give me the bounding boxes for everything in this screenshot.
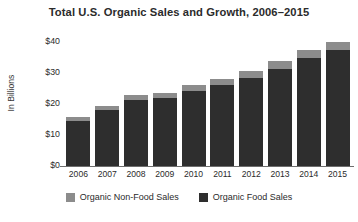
bar-segment-non-food: [297, 50, 321, 58]
bar-2014: [297, 50, 321, 166]
bar-2012: [239, 71, 263, 166]
bar-segment-non-food: [326, 42, 350, 50]
bar-2006: [66, 117, 90, 166]
bar-segment-food: [210, 85, 234, 166]
x-axis-baseline: [60, 166, 354, 167]
bar-segment-food: [239, 78, 263, 166]
bar-2009: [153, 93, 177, 166]
chart-legend: Organic Non-Food SalesOrganic Food Sales: [0, 192, 358, 202]
x-axis-tick-2015: 2015: [321, 169, 355, 179]
bar-segment-food: [182, 91, 206, 166]
bar-segment-food: [268, 69, 292, 166]
chart-title: Total U.S. Organic Sales and Growth, 200…: [0, 6, 358, 18]
bar-2011: [210, 79, 234, 166]
bar-2008: [124, 95, 148, 166]
legend-item[interactable]: Organic Non-Food Sales: [66, 192, 179, 202]
bar-segment-food: [66, 121, 90, 166]
y-axis-tick: $40: [30, 36, 60, 46]
bar-segment-food: [297, 58, 321, 166]
y-axis-tick: $0: [30, 160, 60, 170]
bar-segment-food: [124, 100, 148, 166]
bar-segment-food: [326, 50, 350, 166]
bar-segment-non-food: [239, 71, 263, 78]
legend-label: Organic Non-Food Sales: [80, 192, 179, 202]
legend-swatch-icon: [66, 193, 75, 202]
bar-2013: [268, 61, 292, 166]
bar-segment-non-food: [268, 61, 292, 68]
legend-item[interactable]: Organic Food Sales: [199, 192, 293, 202]
y-axis-tick: $30: [30, 67, 60, 77]
bar-2010: [182, 85, 206, 166]
bar-segment-food: [153, 98, 177, 166]
legend-label: Organic Food Sales: [213, 192, 293, 202]
organic-sales-bar-chart: Total U.S. Organic Sales and Growth, 200…: [0, 0, 358, 222]
bar-2007: [95, 106, 119, 166]
plot-area: [64, 30, 352, 166]
bar-segment-food: [95, 110, 119, 166]
y-axis-tick: $10: [30, 129, 60, 139]
y-axis-tick: $20: [30, 98, 60, 108]
legend-swatch-icon: [199, 193, 208, 202]
y-axis-label: In Billions: [6, 58, 16, 128]
bar-2015: [326, 42, 350, 166]
